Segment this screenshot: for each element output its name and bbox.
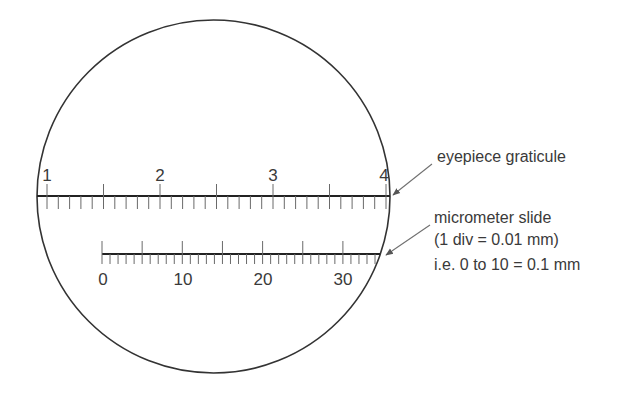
micrometer-label-20: 20	[254, 270, 273, 289]
micrometer-conversion-note: i.e. 0 to 10 = 0.1 mm	[434, 256, 580, 273]
micrometer-slide-label: micrometer slide	[434, 209, 551, 226]
eyepiece-graticule-label: eyepiece graticule	[437, 148, 566, 165]
graticule-labels: 1 2 3 4	[42, 166, 388, 185]
micrometer-label-30: 30	[334, 270, 353, 289]
micrometer-labels: 0 10 20 30	[98, 270, 352, 289]
micrometer-pointer-arrow	[386, 225, 430, 255]
micrometer-label-10: 10	[174, 270, 193, 289]
graticule-label-1: 1	[42, 166, 51, 185]
graticule-label-2: 2	[155, 166, 164, 185]
graticule-label-3: 3	[268, 166, 277, 185]
graticule-pointer-arrow	[393, 164, 432, 195]
micrometer-ticks	[102, 241, 375, 264]
micrometer-slide-scale: 0 10 20 30	[98, 241, 380, 289]
eyepiece-graticule-scale: 1 2 3 4	[37, 166, 390, 209]
graticule-label-4: 4	[379, 166, 388, 185]
micrometer-label-0: 0	[98, 270, 107, 289]
micrometer-division-note: (1 div = 0.01 mm)	[434, 231, 559, 248]
eyepiece-calibration-diagram: 1 2 3 4 0 10 20 30 eyepiece graticule mi…	[0, 0, 635, 393]
